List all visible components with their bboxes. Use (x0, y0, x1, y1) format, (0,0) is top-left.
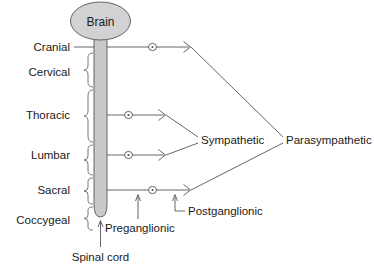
ans-divisions-diagram: Brain Cranial Cervical Thoracic Lumbar S… (0, 0, 375, 269)
division-labels-group: Sympathetic Parasympathetic (201, 134, 372, 146)
preganglionic-callout: Preganglionic (105, 195, 175, 235)
diagram-canvas: Brain Cranial Cervical Thoracic Lumbar S… (0, 0, 375, 269)
nerve-row-sacral (107, 185, 191, 196)
sympathetic-label: Sympathetic (201, 134, 265, 146)
segment-label-lumbar: Lumbar (31, 149, 70, 161)
brain-label: Brain (86, 15, 114, 29)
segment-braces-group (84, 53, 93, 230)
parasympathetic-branch-sacral (191, 143, 283, 190)
spinal-cord-shape (94, 30, 107, 217)
brace-thoracic (84, 90, 93, 142)
central-nervous-system-group: Brain (71, 2, 131, 217)
segment-label-sacral: Sacral (37, 184, 70, 196)
sympathetic-branch-lumbar (166, 143, 198, 155)
segment-label-thoracic: Thoracic (26, 109, 70, 121)
parasympathetic-label: Parasympathetic (286, 134, 372, 146)
brace-lumbar (84, 145, 93, 175)
nerve-row-lumbar (107, 150, 166, 161)
sympathetic-branch-thoracic (166, 115, 198, 137)
lumbar-ganglion-center-icon (127, 154, 129, 156)
spinal-cord-label: Spinal cord (72, 251, 130, 263)
nerve-row-thoracic (107, 110, 166, 121)
postganglionic-label: Postganglionic (188, 205, 263, 217)
sacral-ganglion-center-icon (151, 189, 153, 191)
brace-sacral (84, 178, 93, 204)
segment-label-cervical: Cervical (28, 66, 70, 78)
division-connectors-group (166, 47, 283, 190)
preganglionic-label: Preganglionic (105, 222, 175, 234)
nerve-row-cranial (74, 42, 191, 53)
segment-label-cranial: Cranial (34, 41, 70, 53)
brace-cervical (84, 53, 93, 87)
parasympathetic-branch-cranial (191, 47, 283, 137)
postganglionic-callout: Postganglionic (173, 195, 264, 218)
segment-labels-group: Cranial Cervical Thoracic Lumbar Sacral … (16, 41, 70, 226)
segment-label-coccygeal: Coccygeal (16, 214, 70, 226)
thoracic-ganglion-center-icon (127, 114, 129, 116)
cranial-ganglion-center-icon (151, 46, 153, 48)
brace-coccygeal (84, 207, 93, 230)
